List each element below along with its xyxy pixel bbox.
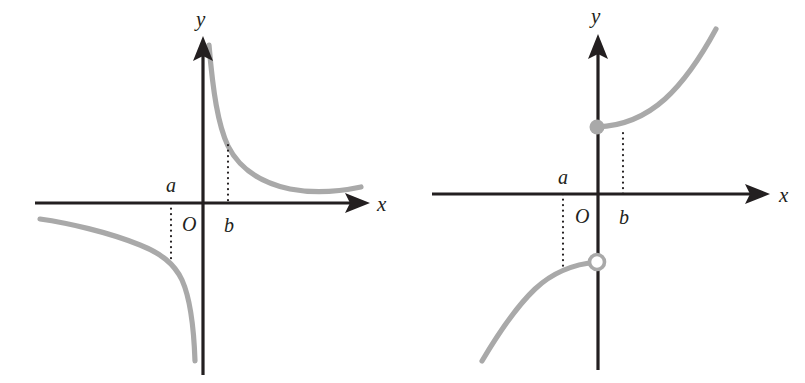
filled-endpoint — [590, 120, 605, 135]
tick-label-b: b — [619, 206, 629, 228]
x-axis-label: x — [778, 183, 789, 207]
hyperbola-graph: y x O a b — [35, 7, 387, 375]
tick-label-a: a — [558, 166, 568, 188]
open-endpoint — [590, 255, 605, 270]
origin-label: O — [182, 213, 196, 235]
curve-upper-branch — [597, 29, 716, 127]
tick-label-b: b — [224, 214, 234, 236]
tick-label-a: a — [166, 174, 176, 196]
origin-label: O — [575, 205, 589, 227]
figure-canvas: y x O a b y x O a — [0, 0, 805, 383]
curve-branch-quadrant-three — [40, 219, 195, 361]
curve-lower-branch — [482, 262, 597, 361]
curve-branch-quadrant-one — [209, 45, 361, 192]
figure-svg: y x O a b y x O a — [0, 0, 805, 383]
y-axis-label: y — [194, 7, 206, 31]
x-axis-label: x — [376, 192, 387, 216]
jump-discontinuity-graph: y x O a b — [432, 4, 789, 370]
y-axis-label: y — [589, 4, 601, 28]
